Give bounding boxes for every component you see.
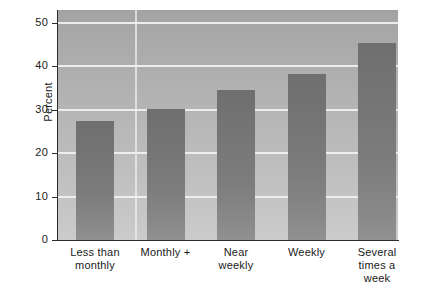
scan-artifact-line	[135, 10, 137, 240]
y-tick-label-10: 10	[35, 191, 48, 202]
y-tick-mark-40	[52, 66, 57, 67]
y-tick-mark-10	[52, 197, 57, 198]
bar-chart-figure: Percent 01020304050 Less thanmonthlyMont…	[0, 0, 421, 299]
y-axis-title: Percent	[42, 62, 54, 142]
y-tick-mark-0	[52, 240, 57, 241]
bar	[358, 43, 396, 240]
y-tick-label-20: 20	[35, 147, 48, 158]
y-tick-mark-50	[52, 23, 57, 24]
y-tick-mark-30	[52, 110, 57, 111]
y-tick-label-0: 0	[42, 234, 48, 245]
x-axis-line	[57, 240, 399, 241]
bar	[217, 90, 255, 240]
x-tick-label-line: weekly	[191, 259, 281, 272]
bar	[288, 74, 326, 240]
x-tick-label: Severaltimes aweek	[332, 246, 421, 285]
gridline-40	[58, 65, 398, 67]
y-tick-label-40: 40	[35, 60, 48, 71]
y-tick-mark-20	[52, 153, 57, 154]
y-tick-label-50: 50	[35, 17, 48, 28]
bar	[147, 109, 185, 240]
plot-area	[58, 10, 398, 240]
x-tick-label-line: monthly	[50, 259, 140, 272]
x-tick-label-line: times a	[332, 259, 421, 272]
y-tick-label-30: 30	[35, 104, 48, 115]
gridline-50	[58, 22, 398, 24]
bar	[76, 121, 114, 240]
x-tick-label-line: week	[332, 272, 421, 285]
x-tick-label-line: Several	[332, 246, 421, 259]
